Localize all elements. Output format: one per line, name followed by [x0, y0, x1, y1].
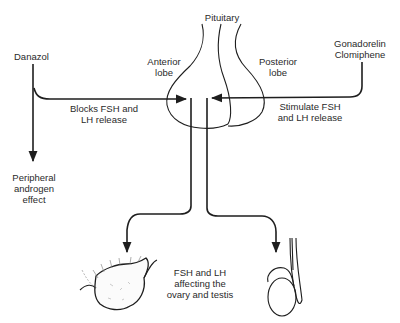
- blocks-label: Blocks FSH and LH release: [62, 103, 146, 125]
- testis-icon: [268, 238, 302, 316]
- danazol-label: Danazol: [14, 51, 49, 62]
- gonadorelin-clomiphene-label: Gonadorelin Clomiphene: [328, 38, 392, 60]
- fsh-lh-effect-label: FSH and LH affecting the ovary and testi…: [160, 267, 240, 300]
- stimulate-label: Stimulate FSH and LH release: [270, 101, 350, 123]
- testis-arrow: [207, 98, 276, 252]
- posterior-lobe-label: Posterior lobe: [252, 56, 304, 78]
- pituitary-label: Pituitary: [198, 12, 246, 23]
- anterior-lobe-label: Anterior lobe: [140, 56, 188, 78]
- ovary-icon: [80, 256, 157, 310]
- diagram-canvas: Pituitary Anterior lobe Posterior lobe D…: [0, 0, 400, 323]
- peripheral-label: Peripheral androgen effect: [6, 172, 62, 205]
- blocks-arrow: [34, 88, 186, 99]
